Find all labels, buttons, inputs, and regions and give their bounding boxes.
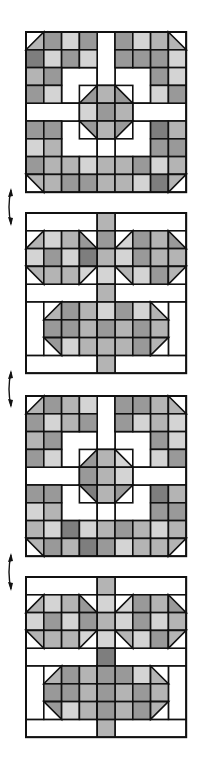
rotate-arrow-icon xyxy=(8,188,13,226)
quilt-block-flower-rows xyxy=(26,213,186,373)
quilt-block-flower-rows xyxy=(26,577,186,737)
quilt-block-star-cross xyxy=(26,396,186,556)
rotate-arrow-icon xyxy=(8,553,13,591)
quilt-block-star-cross xyxy=(26,32,186,192)
rotate-arrow-icon xyxy=(8,370,13,408)
quilt-diagram xyxy=(0,0,201,774)
